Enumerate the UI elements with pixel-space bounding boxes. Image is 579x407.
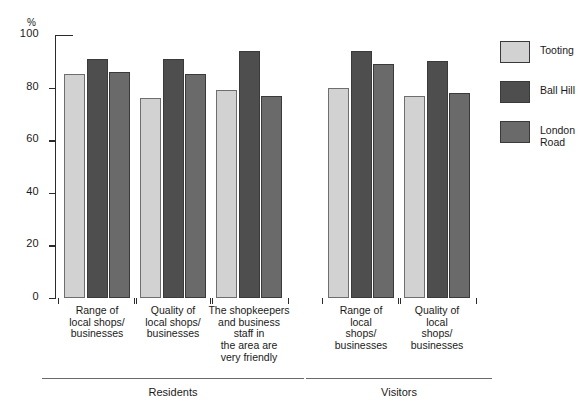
- category-label-3: The shopkeepersand businessstaff inthe a…: [207, 305, 291, 364]
- bar-london-road-cat5: [449, 93, 470, 298]
- bar-london-road-cat4: [373, 64, 394, 298]
- category-tick: [136, 298, 137, 304]
- y-tick-mark: [49, 298, 56, 299]
- bar-tooting-cat2: [140, 98, 161, 298]
- category-label-line: Range of: [55, 305, 139, 317]
- bar-tooting-cat3: [216, 90, 237, 298]
- legend-label-line: Ball Hill: [540, 84, 579, 96]
- legend-row-london-road[interactable]: LondonRoad: [500, 121, 579, 161]
- y-tick-mark: [49, 245, 56, 246]
- bar-ball-hill-cat4: [351, 51, 372, 298]
- category-label-2: Quality oflocal shops/businesses: [131, 305, 215, 340]
- category-label-4: Range oflocalshops/businesses: [319, 305, 403, 352]
- y-tick-mark: [49, 193, 56, 194]
- legend-swatch-ball-hill: [500, 81, 530, 103]
- legend-swatch-london-road: [500, 121, 530, 143]
- group-rule-1: [42, 378, 304, 379]
- category-label-line: businesses: [395, 340, 479, 352]
- y-tick-label: 0: [33, 290, 39, 302]
- legend: TootingBall HillLondonRoad: [500, 41, 579, 161]
- bar-ball-hill-cat2: [163, 59, 184, 298]
- plot-area: [56, 35, 496, 298]
- legend-label-line: Road: [540, 136, 579, 148]
- legend-row-ball-hill[interactable]: Ball Hill: [500, 81, 579, 121]
- legend-swatch-tooting: [500, 41, 530, 63]
- category-label-line: very friendly: [207, 352, 291, 364]
- bar-tooting-cat1: [64, 74, 85, 298]
- category-label-5: Quality oflocalshops/businesses: [395, 305, 479, 352]
- clipped-title-remnant: [0, 0, 579, 3]
- y-tick-label: 60: [26, 132, 39, 144]
- y-tick-label: 80: [26, 80, 39, 92]
- category-label-1: Range oflocal shops/businesses: [55, 305, 139, 340]
- category-tick: [400, 298, 401, 304]
- y-tick-mark: [49, 140, 56, 141]
- bar-london-road-cat3: [261, 96, 282, 299]
- category-label-line: businesses: [131, 328, 215, 340]
- bar-ball-hill-cat5: [427, 61, 448, 298]
- y-tick-label: 40: [26, 185, 39, 197]
- y-tick-mark: [49, 88, 56, 89]
- group-label-residents: Residents: [42, 386, 304, 398]
- legend-label-line: Tooting: [540, 44, 579, 56]
- bar-ball-hill-cat3: [239, 51, 260, 298]
- category-label-line: The shopkeepers: [207, 305, 291, 317]
- legend-label-line: London: [540, 124, 579, 136]
- bar-tooting-cat4: [328, 88, 349, 298]
- legend-label-tooting: Tooting: [540, 44, 579, 56]
- y-tick-label: 100: [20, 27, 39, 39]
- group-rule-2: [306, 378, 492, 379]
- category-label-line: Quality of: [131, 305, 215, 317]
- group-label-visitors: Visitors: [306, 386, 492, 398]
- category-label-line: Range of: [319, 305, 403, 317]
- bar-london-road-cat1: [109, 72, 130, 298]
- bar-tooting-cat5: [404, 96, 425, 299]
- category-tick: [58, 298, 59, 304]
- legend-row-tooting[interactable]: Tooting: [500, 41, 579, 81]
- category-tick: [134, 298, 135, 304]
- category-label-line: Quality of: [395, 305, 479, 317]
- legend-label-ball-hill: Ball Hill: [540, 84, 579, 96]
- category-tick: [476, 298, 477, 304]
- y-tick-0: 0: [0, 298, 70, 299]
- bar-ball-hill-cat1: [87, 59, 108, 298]
- y-tick-label: 20: [26, 237, 39, 249]
- category-tick: [398, 298, 399, 304]
- bar-chart: % 020406080100 Range oflocal shops/busin…: [0, 0, 579, 407]
- legend-label-london-road: LondonRoad: [540, 124, 579, 148]
- category-label-line: businesses: [55, 328, 139, 340]
- bar-london-road-cat2: [185, 74, 206, 298]
- category-tick: [322, 298, 323, 304]
- category-label-line: businesses: [319, 340, 403, 352]
